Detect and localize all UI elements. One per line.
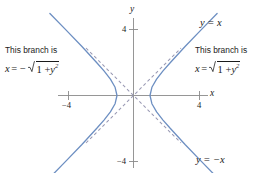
x-tick-label-negative-4: −4 [62, 101, 71, 110]
plot-canvas [0, 0, 271, 173]
radical-sign-icon [28, 61, 35, 72]
right-eq-variable: x [195, 63, 200, 74]
asymptote-lower-label: y = −x [196, 155, 225, 166]
left-eq-variable: x [5, 63, 10, 74]
asymptote-upper-label: y = x [200, 18, 222, 29]
radical-sign-icon [209, 61, 216, 72]
right-branch-curve [150, 14, 217, 174]
left-eq-equals-sign: = [10, 63, 19, 74]
right-branch-equation: x= 1 +y2 [195, 61, 240, 75]
x-axis-label: x [210, 89, 214, 99]
left-eq-radicand-exponent: 2 [55, 62, 58, 69]
y-axis-label: y [130, 5, 134, 15]
right-eq-radicand-const: 1 + [218, 63, 232, 74]
right-branch-caption: This branch is [195, 46, 247, 54]
left-eq-radical: 1 +y2 [28, 61, 59, 75]
left-eq-minus-sign: − [19, 63, 28, 74]
left-branch-caption: This branch is [5, 46, 57, 54]
y-tick-label-negative-4: −4 [117, 157, 126, 166]
left-eq-radicand-const: 1 + [37, 63, 51, 74]
hyperbola-figure: y x 4 −4 −4 4 This branch is x=− 1 +y2 T… [0, 0, 271, 173]
left-branch-curve [50, 14, 117, 174]
x-tick-label-4: 4 [197, 101, 201, 110]
right-eq-radicand: 1 +y2 [217, 61, 241, 75]
y-tick-label-4: 4 [122, 25, 126, 34]
right-eq-equals-sign: = [200, 63, 209, 74]
right-eq-radicand-exponent: 2 [236, 62, 239, 69]
right-eq-radical: 1 +y2 [209, 61, 240, 75]
left-branch-equation: x=− 1 +y2 [5, 61, 59, 75]
left-eq-radicand: 1 +y2 [36, 61, 60, 75]
